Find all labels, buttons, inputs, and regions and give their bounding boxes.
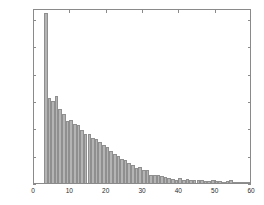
x-tick-label: 50 <box>211 187 218 194</box>
y-tick-mark-right <box>248 184 251 185</box>
x-tick-label: 0 <box>31 187 35 194</box>
y-tick-mark <box>33 184 36 185</box>
bar-series <box>34 10 250 183</box>
x-tick-label: 10 <box>66 187 73 194</box>
histogram-bar <box>247 182 251 183</box>
x-tick-label: 30 <box>138 187 145 194</box>
x-tick-label: 40 <box>175 187 182 194</box>
plot-area <box>33 9 251 184</box>
x-tick-label: 60 <box>247 187 254 194</box>
x-tick-label: 20 <box>102 187 109 194</box>
histogram-figure: 0200400600800100012000102030405060 <box>0 0 264 205</box>
